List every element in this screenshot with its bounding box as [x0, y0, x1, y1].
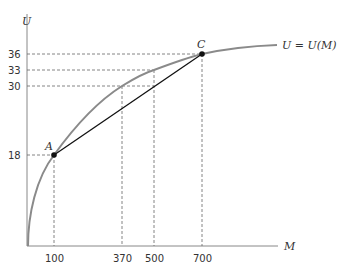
y-tick-18: 18: [8, 150, 21, 161]
y-tick-30: 30: [8, 81, 21, 92]
x-tick-100: 100: [45, 253, 64, 264]
guide-lines: [27, 54, 202, 246]
curve-label: U = U(M): [282, 39, 337, 52]
utility-chart: A C U M U = U(M) 36 33 30 18 100 370 500…: [0, 0, 338, 274]
point-c-label: C: [197, 38, 206, 51]
point-a: [51, 152, 57, 158]
utility-curve: [28, 45, 277, 246]
x-tick-370: 370: [113, 253, 132, 264]
x-tick-700: 700: [193, 253, 212, 264]
point-c: [199, 51, 205, 57]
y-tick-36: 36: [8, 49, 21, 60]
point-a-label: A: [44, 140, 53, 153]
y-tick-33: 33: [8, 65, 21, 76]
x-tick-500: 500: [145, 253, 164, 264]
y-axis-label: U: [22, 15, 32, 28]
x-axis-label: M: [283, 240, 296, 253]
chord-line: [54, 54, 202, 155]
